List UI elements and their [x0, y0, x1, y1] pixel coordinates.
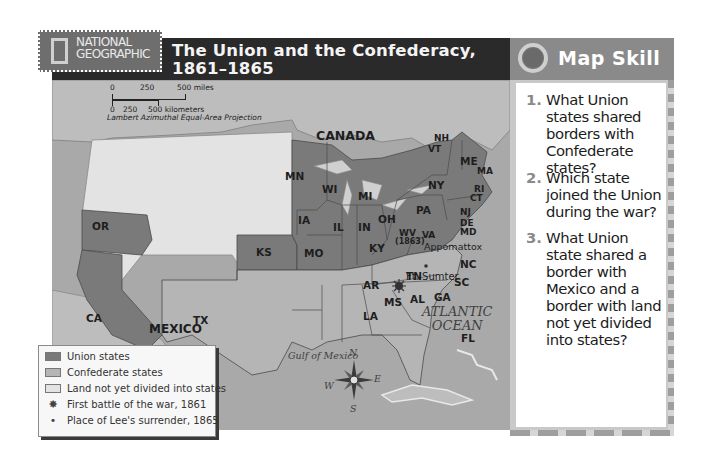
- scale-miles-500: 500 miles: [177, 83, 214, 92]
- label-atlantic-line2: OCEAN: [422, 319, 493, 333]
- question-text: What Union state shared a border with Me…: [526, 229, 664, 348]
- dot-icon: •: [45, 414, 61, 427]
- appomattox-dot: [424, 264, 428, 268]
- compass-rose: [334, 360, 374, 400]
- national-geographic-logo: NATIONAL GEOGRAPHIC: [38, 30, 162, 72]
- label-canada: CANADA: [316, 128, 375, 143]
- territory-swatch-icon: [45, 384, 61, 393]
- label-ia: IA: [298, 214, 310, 226]
- legend-label: Union states: [67, 351, 130, 362]
- map-skill-circle-icon: [518, 43, 548, 73]
- legend-label: Land not yet divided into states: [67, 383, 226, 394]
- label-ma: MA: [477, 166, 493, 176]
- label-ga: GA: [434, 291, 451, 303]
- label-ny: NY: [428, 179, 444, 191]
- label-mi: MI: [358, 190, 372, 202]
- label-vt: VT: [428, 144, 441, 154]
- question-2: 2. Which state joined the Union during t…: [526, 169, 664, 220]
- scale-miles-250: 250: [140, 83, 154, 92]
- union-swatch-icon: [45, 352, 61, 361]
- label-or: OR: [92, 220, 109, 232]
- scale-miles-0: 0: [110, 83, 115, 92]
- label-fl: FL: [461, 332, 475, 344]
- question-text: Which state joined the Union during the …: [526, 169, 664, 220]
- label-al: AL: [410, 293, 425, 305]
- battle-burst-icon: [392, 279, 406, 293]
- label-ft-sumter: Ft. Sumter: [406, 271, 459, 282]
- compass-n: N: [349, 347, 357, 358]
- question-number: 1.: [526, 91, 542, 108]
- label-ri: RI: [474, 184, 484, 194]
- label-mn: MN: [285, 170, 304, 182]
- compass-s: S: [350, 403, 357, 414]
- map-title-line2: 1861–1865: [172, 60, 476, 78]
- map-skill-header: Map Skill: [510, 38, 674, 80]
- legend-item-confederate: Confederate states: [45, 366, 163, 379]
- label-wi: WI: [322, 183, 338, 195]
- legend-item-first-battle: ✸ First battle of the war, 1861: [45, 398, 206, 411]
- label-nj: NJ: [460, 207, 471, 217]
- label-gulf-of-mexico: Gulf of Mexico: [288, 350, 358, 361]
- question-number: 2.: [526, 169, 542, 186]
- label-la: LA: [363, 310, 378, 322]
- question-number: 3.: [526, 229, 542, 246]
- label-ks: KS: [256, 246, 272, 258]
- ng-brand-line2: GEOGRAPHIC: [76, 48, 150, 60]
- map-title: The Union and the Confederacy, 1861–1865: [172, 42, 476, 78]
- legend-item-union: Union states: [45, 350, 130, 363]
- label-nh: NH: [434, 133, 449, 143]
- label-mo: MO: [304, 247, 323, 259]
- label-in: IN: [358, 221, 371, 233]
- label-atlantic-line1: ATLANTIC: [422, 305, 493, 319]
- ng-wordmark: NATIONAL GEOGRAPHIC: [76, 36, 150, 60]
- label-nc: NC: [460, 258, 477, 270]
- label-atlantic-ocean: ATLANTIC OCEAN: [422, 305, 493, 333]
- legend-label: Confederate states: [67, 367, 163, 378]
- label-appomattox: Appomattox: [424, 241, 482, 252]
- label-ar: AR: [363, 279, 379, 291]
- ng-yellow-border-icon: [51, 38, 68, 64]
- label-pa: PA: [416, 204, 431, 216]
- battle-burst-icon: ✸: [45, 398, 61, 411]
- label-md: MD: [460, 227, 476, 237]
- question-3: 3. What Union state shared a border with…: [526, 229, 664, 348]
- map-skill-title: Map Skill: [558, 47, 660, 69]
- legend-item-territory: Land not yet divided into states: [45, 382, 226, 395]
- question-1: 1. What Union states shared borders with…: [526, 91, 664, 176]
- label-oh: OH: [378, 213, 396, 225]
- label-va: VA: [422, 230, 435, 240]
- label-wv-year: (1863): [395, 237, 425, 246]
- label-ca: CA: [86, 312, 102, 324]
- label-me: ME: [460, 155, 478, 167]
- map-legend: Union states Confederate states Land not…: [38, 345, 216, 437]
- map-title-line1: The Union and the Confederacy,: [172, 42, 476, 60]
- label-il: IL: [333, 221, 344, 233]
- projection-label: Lambert Azimuthal Equal-Area Projection: [107, 113, 262, 122]
- map-skill-panel: 1. What Union states shared borders with…: [510, 80, 674, 436]
- label-ms: MS: [384, 296, 402, 308]
- label-ct: CT: [470, 193, 483, 203]
- confederate-swatch-icon: [45, 368, 61, 377]
- legend-label: First battle of the war, 1861: [67, 399, 206, 410]
- label-tx: TX: [193, 314, 208, 326]
- legend-item-surrender: • Place of Lee's surrender, 1865: [45, 414, 219, 427]
- legend-label: Place of Lee's surrender, 1865: [67, 415, 219, 426]
- label-ky: KY: [369, 242, 385, 254]
- compass-e: E: [374, 373, 381, 384]
- map-skill-questions: 1. What Union states shared borders with…: [516, 83, 666, 427]
- question-text: What Union states shared borders with Co…: [526, 91, 664, 176]
- compass-w: W: [324, 380, 334, 391]
